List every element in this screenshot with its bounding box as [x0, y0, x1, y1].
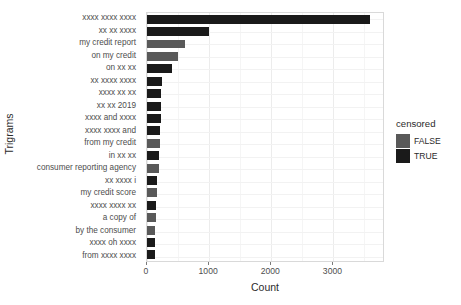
bar-chart: Trigrams xxxx xxxx xxxxxx xx xxxxmy cred…: [0, 0, 461, 305]
y-axis-tick: consumer reporting agency: [16, 162, 142, 175]
bar-row: [147, 63, 383, 75]
y-axis-tick: a copy of: [16, 212, 142, 225]
plot-panel: [146, 12, 384, 262]
y-axis-tick-label: xxxx xxxx xxxx: [82, 14, 136, 22]
legend-items: FALSETRUE: [396, 133, 458, 163]
bar-row: [147, 50, 383, 62]
legend-label: FALSE: [414, 136, 441, 146]
legend-item[interactable]: FALSE: [396, 133, 458, 148]
x-axis-tick-mark: [146, 262, 147, 265]
x-axis-title: Count: [146, 281, 384, 293]
x-axis-tick-label: 1000: [199, 266, 218, 276]
y-axis-tick: on my credit: [16, 50, 142, 63]
bar: [147, 164, 159, 173]
bar-row: [147, 100, 383, 112]
y-axis-tick: xx xxxx xxxx: [16, 75, 142, 88]
bar-row: [147, 199, 383, 211]
y-axis-tick-label: from xxxx xxxx: [82, 252, 136, 260]
y-axis-tick: xxxx xxxx xx: [16, 200, 142, 213]
bar-row: [147, 249, 383, 261]
x-axis-tick-mark: [208, 262, 209, 265]
y-axis-tick: my credit score: [16, 187, 142, 200]
y-axis-tick-label: by the consumer: [75, 227, 136, 235]
legend-swatch-icon: [396, 149, 410, 163]
bar: [147, 27, 209, 36]
y-axis-tick-label: xxxx and xxxx: [85, 114, 136, 122]
y-axis-tick-label: xx xx xxxx: [99, 27, 136, 35]
y-axis-tick: my credit report: [16, 37, 142, 50]
bar: [147, 201, 156, 210]
bar: [147, 89, 161, 98]
x-axis-tick-mark: [332, 262, 333, 265]
bar: [147, 77, 162, 86]
bar-row: [147, 224, 383, 236]
y-axis-tick: from my credit: [16, 137, 142, 150]
bar-row: [147, 174, 383, 186]
y-axis-tick-label: xx xxxx xxxx: [91, 77, 137, 85]
bar-row: [147, 13, 383, 25]
x-axis-tick-label: 0: [144, 266, 149, 276]
y-axis-tick: xxxx xx xx: [16, 87, 142, 100]
bar-row: [147, 236, 383, 248]
y-axis-tick-label: a copy of: [103, 214, 136, 222]
y-axis-tick: on xx xx: [16, 62, 142, 75]
x-axis-tick-label: 2000: [261, 266, 280, 276]
y-axis-tick-label: my credit report: [79, 39, 136, 47]
bar-row: [147, 212, 383, 224]
y-axis-tick: xxxx and xxxx: [16, 112, 142, 125]
y-axis-tick: in xx xx: [16, 150, 142, 163]
bar: [147, 188, 157, 197]
bar: [147, 64, 172, 73]
bar: [147, 151, 159, 160]
bar: [147, 250, 155, 259]
legend-title: censored: [396, 118, 458, 129]
y-axis-tick: xx xx xxxx: [16, 25, 142, 38]
bar: [147, 238, 155, 247]
bar-row: [147, 112, 383, 124]
bar-row: [147, 125, 383, 137]
legend-label: TRUE: [414, 151, 437, 161]
legend-swatch-icon: [396, 134, 410, 148]
legend-item[interactable]: TRUE: [396, 148, 458, 163]
y-axis-tick-label: xx xx 2019: [97, 102, 136, 110]
y-axis-tick-label: xxxx xxxx and: [85, 127, 136, 135]
bar: [147, 40, 185, 49]
y-axis-tick: by the consumer: [16, 225, 142, 238]
y-axis-tick-label: xxxx xxxx xx: [91, 202, 137, 210]
y-axis-tick: xxxx xxxx xxxx: [16, 12, 142, 25]
y-axis-tick-label: xxxx xx xx: [99, 89, 136, 97]
bar-row: [147, 38, 383, 50]
bar-row: [147, 75, 383, 87]
y-axis-tick-label: from my credit: [84, 139, 136, 147]
y-axis-tick: xxxx xxxx and: [16, 125, 142, 138]
bar: [147, 52, 178, 61]
bar-row: [147, 25, 383, 37]
bar-row: [147, 87, 383, 99]
y-axis-tick: from xxxx xxxx: [16, 250, 142, 263]
bar: [147, 139, 160, 148]
y-axis-tick-label: on my credit: [91, 52, 136, 60]
bars-layer: [147, 13, 383, 261]
bar: [147, 213, 156, 222]
x-axis-tick-mark: [270, 262, 271, 265]
bar: [147, 15, 370, 24]
bar-row: [147, 162, 383, 174]
bar: [147, 126, 160, 135]
y-axis-tick-label: xxxx oh xxxx: [90, 239, 136, 247]
y-axis-tick-label: my credit score: [80, 189, 136, 197]
y-axis-tick: xx xx 2019: [16, 100, 142, 113]
y-axis-tick-label: xx xxxx i: [105, 177, 136, 185]
y-axis-tick: xx xxxx i: [16, 175, 142, 188]
bar-row: [147, 137, 383, 149]
y-axis-tick: xxxx oh xxxx: [16, 237, 142, 250]
y-axis-tick-label: in xx xx: [109, 152, 136, 160]
x-axis-tick-labels: 0100020003000: [146, 266, 384, 279]
bar: [147, 114, 161, 123]
y-axis-tick-label: consumer reporting agency: [37, 164, 136, 172]
x-axis-tick-label: 3000: [323, 266, 342, 276]
bar: [147, 226, 155, 235]
y-axis-tick-labels: xxxx xxxx xxxxxx xx xxxxmy credit report…: [16, 12, 142, 262]
bar-row: [147, 149, 383, 161]
bar-row: [147, 187, 383, 199]
legend: censored FALSETRUE: [396, 118, 458, 163]
